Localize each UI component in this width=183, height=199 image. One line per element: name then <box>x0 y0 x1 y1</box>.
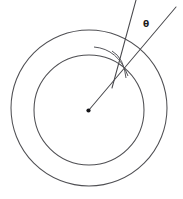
radial-ray <box>89 7 177 111</box>
diagram-canvas <box>0 0 183 199</box>
center-point <box>86 108 90 112</box>
angle-theta-label: θ <box>143 20 149 29</box>
secondary-line <box>112 0 136 88</box>
angle-arc <box>94 47 128 76</box>
geometry-figure: θ <box>0 0 183 199</box>
